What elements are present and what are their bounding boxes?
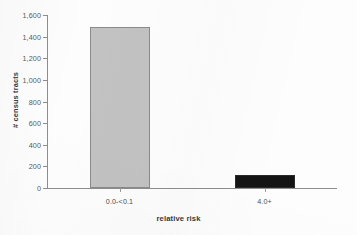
chart-figure: # census tracts 02004006008001,0001,2001… [0,0,357,235]
x-tick-mark [265,188,266,192]
y-tick-label: 600 [29,119,41,128]
y-tick-mark [43,37,47,38]
y-tick-mark [43,145,47,146]
x-axis-line [47,188,337,189]
x-tick-label: 0.0-<0.1 [106,197,133,206]
x-tick-label: 4.0+ [257,197,272,206]
y-tick-mark [43,80,47,81]
y-tick-mark [43,58,47,59]
y-tick-label: 1,400 [23,32,42,41]
y-tick-mark [43,166,47,167]
x-axis-title: relative risk [0,214,357,223]
y-tick-label: 1,200 [23,54,42,63]
y-tick-mark [43,102,47,103]
y-tick-mark [43,15,47,16]
bar-high-risk [235,175,295,188]
y-tick-label: 1,600 [23,11,42,20]
y-tick-label: 1,000 [23,75,42,84]
plot-area: 02004006008001,0001,2001,4001,600 0.0-<0… [47,15,337,189]
x-tick-mark [120,188,121,192]
y-axis-line [47,15,48,189]
y-axis-title: # census tracts [9,60,21,140]
y-tick-label: 800 [29,97,41,106]
y-tick-label: 0 [37,184,41,193]
bar-low-risk [90,27,150,188]
y-tick-mark [43,123,47,124]
y-tick-mark [43,188,47,189]
y-tick-label: 400 [29,140,41,149]
y-tick-label: 200 [29,162,41,171]
